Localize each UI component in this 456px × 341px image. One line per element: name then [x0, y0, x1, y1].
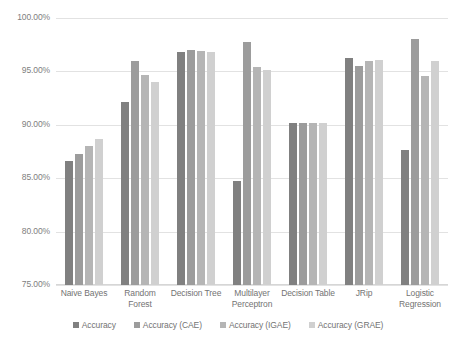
bar — [253, 67, 262, 285]
bar — [207, 52, 216, 285]
plot-area — [56, 18, 448, 285]
y-axis-tick-label: 75.00% — [0, 279, 50, 289]
bar — [401, 150, 410, 285]
bar-chart: 75.00%80.00%85.00%90.00%95.00%100.00% Na… — [0, 0, 456, 341]
x-axis-labels: Naive BayesRandom ForestDecision TreeMul… — [56, 288, 448, 310]
gridline — [56, 285, 448, 286]
legend-label: Accuracy (CAE) — [143, 320, 202, 330]
bar — [289, 123, 298, 285]
x-axis-tick-label: Random Forest — [112, 288, 168, 310]
bar — [309, 123, 318, 285]
y-axis-tick-label: 80.00% — [0, 226, 50, 236]
bar — [121, 102, 130, 285]
bar-group — [224, 18, 280, 285]
legend-swatch-icon — [309, 322, 315, 328]
bar — [177, 52, 186, 285]
legend-item[interactable]: Accuracy — [73, 320, 116, 330]
bar — [411, 39, 420, 285]
bar — [431, 61, 440, 285]
bar — [151, 82, 160, 285]
y-axis-tick-label: 85.00% — [0, 172, 50, 182]
bar-group — [112, 18, 168, 285]
bar — [319, 123, 328, 285]
bar — [85, 146, 94, 285]
bar — [131, 61, 140, 285]
y-axis-tick-label: 95.00% — [0, 65, 50, 75]
bar — [65, 161, 74, 285]
bar — [197, 51, 206, 285]
bar — [345, 58, 354, 285]
legend-item[interactable]: Accuracy (GRAE) — [309, 320, 384, 330]
bar-group — [392, 18, 448, 285]
x-axis-tick-label: JRip — [336, 288, 392, 310]
bar — [263, 70, 272, 285]
x-axis-tick-label: Naive Bayes — [56, 288, 112, 310]
bar-group — [168, 18, 224, 285]
bar — [355, 66, 364, 285]
bar — [95, 139, 104, 285]
bar-group — [280, 18, 336, 285]
y-axis-tick-label: 90.00% — [0, 119, 50, 129]
legend-item[interactable]: Accuracy (CAE) — [134, 320, 202, 330]
y-axis-tick-label: 100.00% — [0, 12, 50, 22]
x-axis-tick-label: Decision Tree — [168, 288, 224, 310]
bar-group — [336, 18, 392, 285]
legend-label: Accuracy — [82, 320, 116, 330]
bar — [365, 61, 374, 285]
x-axis-tick-label: Logistic Regression — [392, 288, 448, 310]
legend-item[interactable]: Accuracy (IGAE) — [220, 320, 291, 330]
legend-label: Accuracy (IGAE) — [229, 320, 291, 330]
legend-swatch-icon — [134, 322, 140, 328]
bar — [243, 42, 252, 286]
bar — [187, 50, 196, 285]
bar — [233, 181, 242, 285]
legend-swatch-icon — [220, 322, 226, 328]
x-axis-tick-label: Multilayer Perceptron — [224, 288, 280, 310]
bar — [299, 123, 308, 285]
chart-legend: AccuracyAccuracy (CAE)Accuracy (IGAE)Acc… — [0, 320, 456, 330]
bar — [375, 60, 384, 285]
bar-group — [56, 18, 112, 285]
bar — [75, 154, 84, 285]
bar — [421, 76, 430, 285]
bar-groups — [56, 18, 448, 285]
bar — [141, 75, 150, 285]
legend-label: Accuracy (GRAE) — [318, 320, 384, 330]
legend-swatch-icon — [73, 322, 79, 328]
x-axis-tick-label: Decision Table — [280, 288, 336, 310]
